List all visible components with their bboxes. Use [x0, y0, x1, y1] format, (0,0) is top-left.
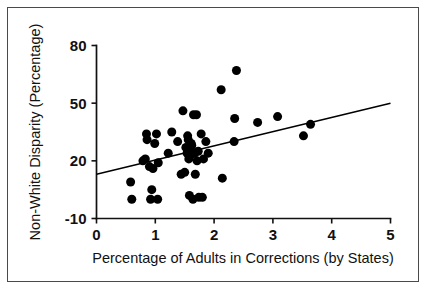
data-point — [126, 177, 135, 186]
y-tick-label: 20 — [70, 152, 87, 169]
data-points — [126, 66, 315, 204]
x-tick-label: 1 — [151, 226, 159, 243]
data-point — [127, 195, 136, 204]
data-point — [192, 110, 201, 119]
data-point — [197, 129, 206, 138]
data-point — [217, 85, 226, 94]
data-point — [147, 185, 156, 194]
data-point — [153, 195, 162, 204]
x-tick-label: 4 — [328, 226, 337, 243]
data-point — [230, 114, 239, 123]
x-axis-title: Percentage of Adults in Corrections (by … — [92, 250, 393, 266]
y-tick-label: -10 — [65, 210, 87, 227]
y-tick-label: 50 — [70, 95, 87, 112]
x-axis-ticks: 012345 — [92, 219, 394, 243]
data-point — [230, 137, 239, 146]
data-point — [194, 147, 203, 156]
data-point — [167, 128, 176, 137]
data-point — [201, 137, 210, 146]
data-point — [253, 118, 262, 127]
data-point — [198, 193, 207, 202]
data-point — [191, 170, 200, 179]
data-point — [152, 129, 161, 138]
figure-root: Non-White Disparity (Percentage) Percent… — [0, 0, 427, 297]
data-point — [232, 66, 241, 75]
y-axis-ticks: -10205080 — [65, 37, 97, 227]
data-point — [204, 149, 213, 158]
data-point — [306, 120, 315, 129]
y-axis-title: Non-White Disparity (Percentage) — [27, 24, 43, 241]
data-point — [178, 106, 187, 115]
x-tick-label: 3 — [269, 226, 277, 243]
x-tick-label: 0 — [92, 226, 100, 243]
x-tick-label: 5 — [386, 226, 394, 243]
data-point — [218, 174, 227, 183]
data-point — [273, 112, 282, 121]
x-tick-label: 2 — [210, 226, 218, 243]
scatter-plot: Non-White Disparity (Percentage) Percent… — [0, 0, 427, 297]
data-point — [164, 149, 173, 158]
data-point — [141, 154, 150, 163]
y-tick-label: 80 — [70, 37, 87, 54]
data-point — [150, 139, 159, 148]
data-point — [154, 158, 163, 167]
data-point — [180, 168, 189, 177]
data-point — [173, 137, 182, 146]
data-point — [143, 135, 152, 144]
data-point — [299, 131, 308, 140]
